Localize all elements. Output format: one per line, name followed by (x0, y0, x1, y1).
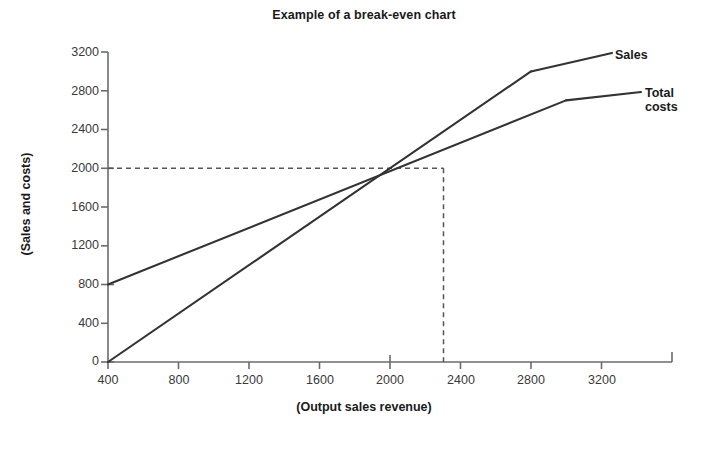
leader-line-sales (531, 53, 612, 71)
plot-area (0, 0, 728, 452)
series-line-total-costs (108, 100, 566, 284)
series-line-sales (108, 71, 531, 362)
x-tick-marks (108, 352, 672, 369)
leader-line-total-costs (566, 92, 641, 100)
break-even-chart: Example of a break-even chart (Sales and… (0, 0, 728, 452)
